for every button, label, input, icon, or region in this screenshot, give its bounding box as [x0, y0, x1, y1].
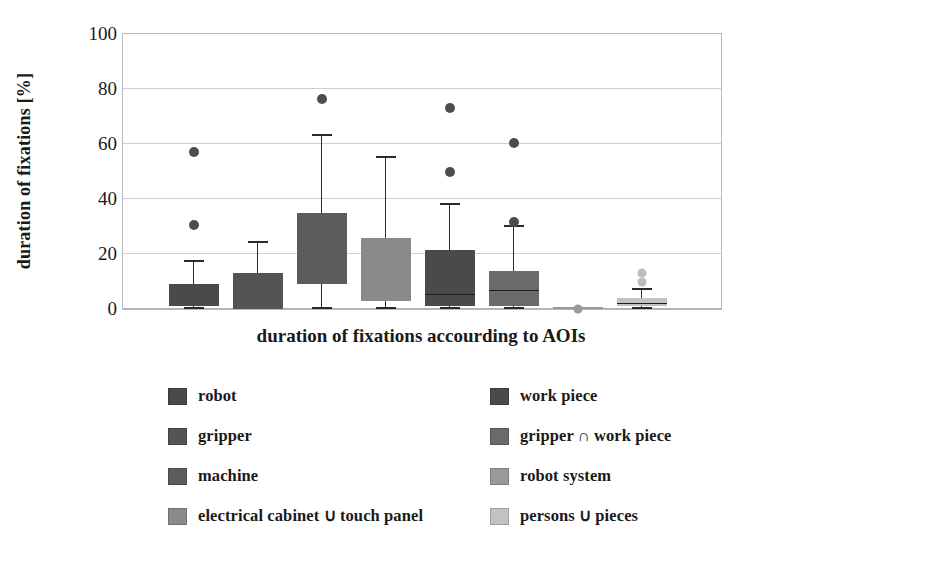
outlier-point[interactable]: [637, 269, 646, 278]
outlier-point[interactable]: [573, 305, 582, 314]
outlier-point[interactable]: [637, 277, 646, 286]
legend-item-label: gripper: [198, 426, 252, 446]
chart-legend: robotwork piecegrippergripper ∩ work pie…: [168, 376, 808, 536]
legend-item[interactable]: machine: [168, 456, 490, 496]
box-body[interactable]: [489, 271, 539, 307]
outlier-point[interactable]: [317, 94, 327, 104]
legend-item[interactable]: electrical cabinet ∪ touch panel: [168, 496, 490, 536]
box-body[interactable]: [361, 238, 411, 301]
plot-container: duration of fixations [%] 020406080100: [0, 0, 949, 340]
whisker-upper: [641, 290, 642, 298]
box-plot-series[interactable]: [361, 34, 411, 309]
legend-item-label: robot: [198, 386, 237, 406]
outlier-point[interactable]: [509, 217, 519, 227]
box-body[interactable]: [169, 284, 219, 306]
legend-row: machinerobot system: [168, 456, 808, 496]
y-axis-tick-100: 100: [47, 24, 117, 43]
box-plot-series[interactable]: [425, 34, 475, 309]
whisker-cap-lower: [632, 307, 652, 309]
legend-item[interactable]: work piece: [490, 376, 808, 416]
legend-item[interactable]: gripper: [168, 416, 490, 456]
legend-color-swatch-icon: [490, 468, 509, 485]
legend-color-swatch-icon: [490, 388, 509, 405]
legend-item[interactable]: robot: [168, 376, 490, 416]
whisker-cap-upper: [248, 241, 268, 243]
outlier-point[interactable]: [189, 220, 199, 230]
legend-color-swatch-icon: [168, 468, 187, 485]
whisker-upper: [193, 262, 194, 284]
box-plot-series[interactable]: [233, 34, 283, 309]
whisker-cap-upper: [632, 288, 652, 290]
y-axis-tick-80: 80: [47, 79, 117, 98]
legend-item-label: electrical cabinet ∪ touch panel: [198, 506, 423, 526]
box-body[interactable]: [297, 213, 347, 285]
legend-item-label: work piece: [520, 386, 598, 406]
whisker-cap-upper: [312, 134, 332, 136]
median-line: [489, 290, 539, 291]
y-axis-tick-60: 60: [47, 134, 117, 153]
legend-row: robotwork piece: [168, 376, 808, 416]
whisker-cap-lower: [440, 307, 460, 309]
whisker-upper: [385, 158, 386, 238]
whisker-lower: [321, 284, 322, 309]
legend-item-label: machine: [198, 466, 258, 486]
y-axis-tick-0: 0: [47, 299, 117, 318]
box-plot-series[interactable]: [297, 34, 347, 309]
y-axis-tick-labels: 020406080100: [45, 20, 117, 320]
outlier-point[interactable]: [445, 167, 455, 177]
legend-color-swatch-icon: [490, 508, 509, 525]
legend-item[interactable]: persons ∪ pieces: [490, 496, 808, 536]
box-plot-figure: duration of fixations [%] 020406080100 d…: [0, 0, 949, 582]
legend-row: grippergripper ∩ work piece: [168, 416, 808, 456]
legend-item-label: robot system: [520, 466, 611, 486]
legend-item-label: persons ∪ pieces: [520, 506, 638, 526]
legend-item[interactable]: gripper ∩ work piece: [490, 416, 808, 456]
box-plot-series[interactable]: [617, 34, 667, 309]
whisker-cap-upper: [184, 260, 204, 262]
y-axis-tick-40: 40: [47, 189, 117, 208]
whisker-upper: [321, 136, 322, 213]
whisker-cap-upper: [376, 156, 396, 158]
y-axis-title: duration of fixations [%]: [14, 36, 34, 306]
outlier-point[interactable]: [509, 138, 519, 148]
whisker-cap-upper: [440, 203, 460, 205]
median-line: [617, 303, 667, 304]
whisker-upper: [449, 205, 450, 250]
legend-color-swatch-icon: [490, 428, 509, 445]
box-plot-series[interactable]: [553, 34, 603, 309]
whisker-cap-lower: [184, 307, 204, 309]
outlier-point[interactable]: [445, 103, 455, 113]
whisker-upper: [257, 243, 258, 273]
outlier-point[interactable]: [189, 147, 199, 157]
box-body[interactable]: [425, 250, 475, 306]
x-axis-title: duration of fixations accourding to AOIs: [122, 325, 720, 347]
legend-color-swatch-icon: [168, 508, 187, 525]
median-line: [425, 294, 475, 295]
box-plot-series[interactable]: [489, 34, 539, 309]
legend-color-swatch-icon: [168, 428, 187, 445]
plot-area: [122, 33, 722, 310]
box-plot-series[interactable]: [169, 34, 219, 309]
legend-item-label: gripper ∩ work piece: [520, 426, 672, 446]
legend-item[interactable]: robot system: [490, 456, 808, 496]
legend-color-swatch-icon: [168, 388, 187, 405]
y-axis-tick-20: 20: [47, 244, 117, 263]
whisker-upper: [513, 227, 514, 271]
whisker-cap-lower: [376, 307, 396, 309]
box-body[interactable]: [233, 273, 283, 309]
whisker-cap-lower: [504, 307, 524, 309]
whisker-cap-lower: [312, 307, 332, 309]
legend-row: electrical cabinet ∪ touch panelpersons …: [168, 496, 808, 536]
